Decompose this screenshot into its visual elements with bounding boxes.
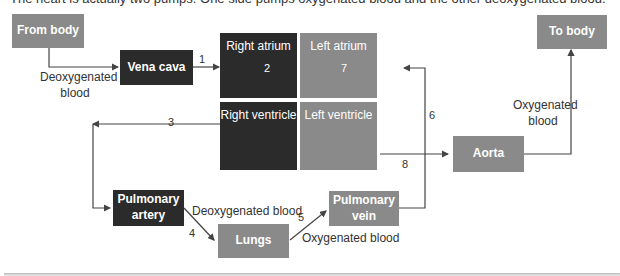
pulmonary-vein-box: Pulmonary vein	[329, 191, 399, 226]
left-ventricle: Left ventricle	[300, 102, 377, 170]
to-body-box: To body	[537, 15, 607, 49]
left-atrium: Left atrium	[300, 33, 377, 98]
aorta-box: Aorta	[453, 136, 524, 172]
oxygenated-label: Oxygenated blood	[513, 98, 573, 129]
vena-cava-box: Vena cava	[120, 50, 193, 85]
step-7: 7	[341, 62, 347, 74]
deoxygenated-blood-label: Deoxygenated blood	[192, 204, 302, 220]
step-2: 2	[264, 62, 270, 74]
step-4: 4	[189, 227, 195, 239]
deoxygenated-label: Deoxygenated blood	[40, 70, 110, 101]
step-3: 3	[168, 116, 174, 128]
step-6: 6	[429, 109, 435, 121]
right-atrium: Right atrium	[220, 33, 297, 98]
right-ventricle: Right ventricle	[220, 102, 297, 170]
step-8: 8	[402, 158, 408, 170]
step-5: 5	[298, 211, 304, 223]
lungs-box: Lungs	[218, 224, 289, 258]
oxygenated-blood-label: Oxygenated blood	[302, 231, 399, 247]
from-body-box: From body	[12, 14, 84, 48]
pulmonary-artery-box: Pulmonary artery	[113, 190, 184, 226]
step-1: 1	[199, 53, 205, 65]
